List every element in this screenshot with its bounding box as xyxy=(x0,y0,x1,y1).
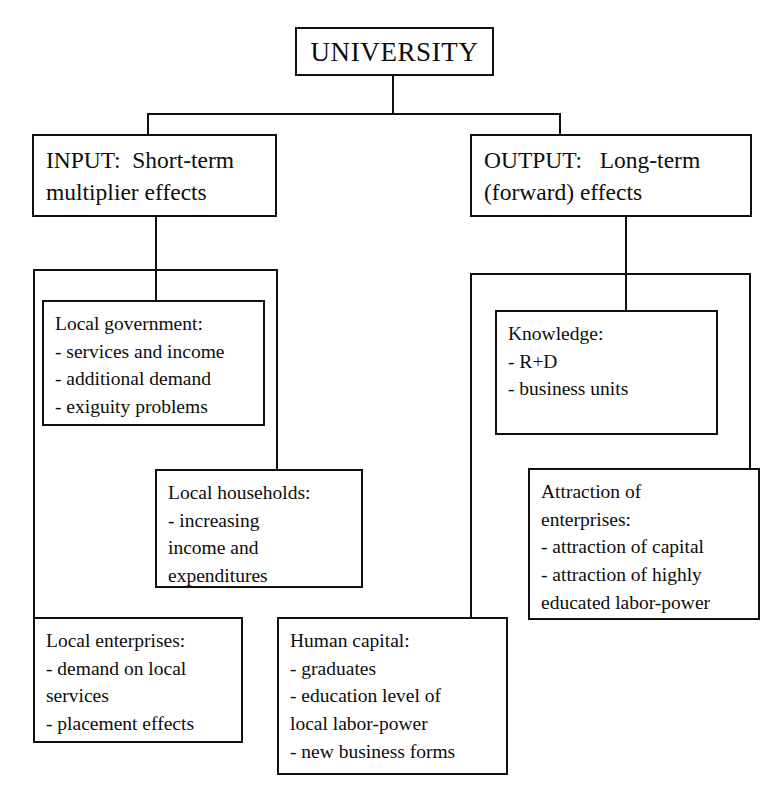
node-human-capital-heading: Human capital: xyxy=(290,627,497,655)
node-output[interactable]: OUTPUT: Long-term (forward) effects xyxy=(470,134,752,217)
node-local-government-heading: Local government: xyxy=(55,310,254,338)
diagram-canvas: UNIVERSITY INPUT: Short-term multiplier … xyxy=(0,0,779,803)
node-local-households-item-1: income and xyxy=(168,534,352,562)
connector-root-stem xyxy=(392,76,394,114)
node-university-label: UNIVERSITY xyxy=(297,38,492,68)
connector-input-right-spine xyxy=(276,269,278,471)
node-human-capital-item-2: local labor-power xyxy=(290,710,497,738)
node-input[interactable]: INPUT: Short-term multiplier effects xyxy=(32,134,277,217)
node-local-households-item-0: - increasing xyxy=(168,507,352,535)
connector-top-bar xyxy=(147,113,561,115)
connector-input-left-spine xyxy=(33,269,35,619)
node-university[interactable]: UNIVERSITY xyxy=(295,27,494,76)
node-knowledge-item-0: - R+D xyxy=(508,348,707,376)
node-attraction-item-2: - attraction of highly xyxy=(541,561,749,589)
node-local-enterprises-item-0: - demand on local xyxy=(46,655,232,683)
connector-input-bar xyxy=(33,269,278,271)
connector-output-right-spine xyxy=(749,273,751,470)
connector-input-stem xyxy=(155,217,157,301)
node-local-households-item-2: expenditures xyxy=(168,562,352,590)
node-human-capital-item-0: - graduates xyxy=(290,655,497,683)
connector-output-left-spine xyxy=(470,273,472,619)
node-local-enterprises-item-2: - placement effects xyxy=(46,710,232,738)
node-input-line2: multiplier effects xyxy=(46,176,265,208)
node-attraction-item-0: enterprises: xyxy=(541,506,749,534)
node-knowledge[interactable]: Knowledge: - R+D - business units xyxy=(495,310,718,435)
node-attraction-heading: Attraction of xyxy=(541,478,749,506)
connector-to-output xyxy=(559,113,561,135)
connector-to-input xyxy=(147,113,149,135)
node-attraction-item-3: educated labor-power xyxy=(541,589,749,617)
node-local-enterprises-heading: Local enterprises: xyxy=(46,627,232,655)
node-human-capital-item-1: - education level of xyxy=(290,682,497,710)
node-output-line1: OUTPUT: Long-term xyxy=(484,144,740,176)
node-local-government[interactable]: Local government: - services and income … xyxy=(42,300,265,426)
node-local-enterprises[interactable]: Local enterprises: - demand on local ser… xyxy=(33,617,243,743)
node-attraction-item-1: - attraction of capital xyxy=(541,533,749,561)
node-input-line1: INPUT: Short-term xyxy=(46,144,265,176)
node-local-government-item-2: - exiguity problems xyxy=(55,393,254,421)
node-attraction-of-enterprises[interactable]: Attraction of enterprises: - attraction … xyxy=(528,468,760,620)
connector-output-stem xyxy=(625,217,627,312)
node-human-capital-item-3: - new business forms xyxy=(290,738,497,766)
node-local-households[interactable]: Local households: - increasing income an… xyxy=(155,469,363,588)
node-knowledge-heading: Knowledge: xyxy=(508,320,707,348)
node-human-capital[interactable]: Human capital: - graduates - education l… xyxy=(277,617,508,775)
node-local-government-item-0: - services and income xyxy=(55,338,254,366)
node-local-enterprises-item-1: services xyxy=(46,682,232,710)
node-knowledge-item-1: - business units xyxy=(508,375,707,403)
node-output-line2: (forward) effects xyxy=(484,176,740,208)
connector-output-bar xyxy=(470,273,751,275)
node-local-government-item-1: - additional demand xyxy=(55,365,254,393)
node-local-households-heading: Local households: xyxy=(168,479,352,507)
